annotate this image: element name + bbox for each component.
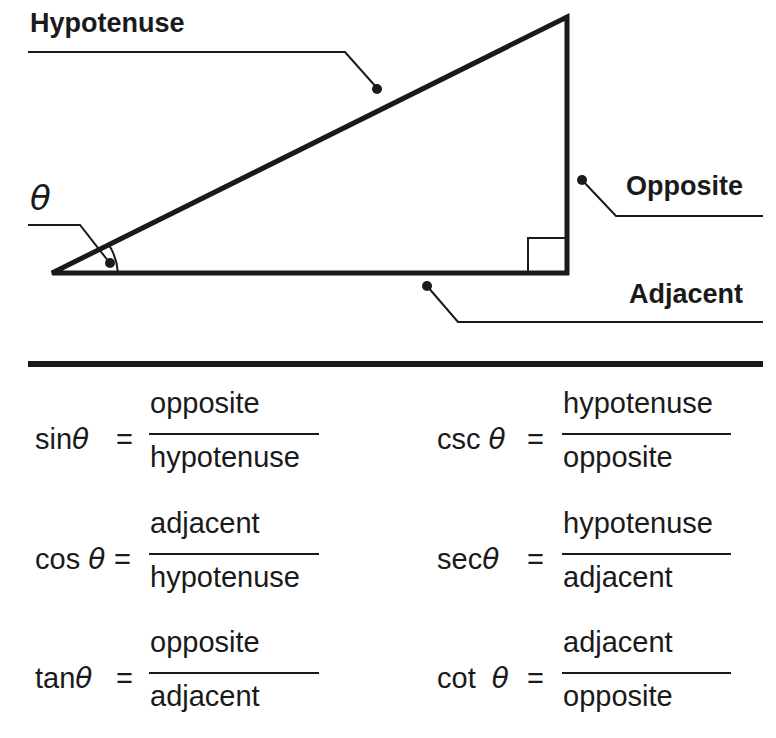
denominator: adjacent	[563, 561, 673, 594]
right-angle-marker	[528, 238, 567, 273]
equals-sign: =	[527, 543, 544, 576]
formula-sec: secθ = hypotenuse adjacent	[400, 521, 776, 631]
opposite-label: Opposite	[626, 171, 743, 202]
fraction-bar	[562, 672, 731, 674]
numerator: opposite	[150, 626, 260, 659]
fraction-bar	[149, 553, 319, 555]
function-name: csc θ	[437, 423, 506, 456]
formula-tan: tanθ = opposite adjacent	[0, 640, 390, 738]
section-divider	[28, 361, 763, 367]
fraction-bar	[562, 433, 731, 435]
formula-csc: csc θ = hypotenuse opposite	[400, 401, 776, 511]
fraction-bar	[562, 553, 731, 555]
denominator: opposite	[563, 680, 673, 713]
numerator: hypotenuse	[563, 387, 713, 420]
formula-sin: sinθ = opposite hypotenuse	[0, 401, 390, 511]
function-name: cot θ	[437, 662, 509, 695]
equals-sign: =	[114, 543, 131, 576]
hypotenuse-label: Hypotenuse	[30, 8, 185, 39]
adjacent-leader-dot	[422, 281, 432, 291]
angle-leader-dot	[105, 258, 115, 268]
denominator: opposite	[563, 441, 673, 474]
denominator: hypotenuse	[150, 441, 300, 474]
numerator: adjacent	[563, 626, 673, 659]
fraction-bar	[149, 433, 319, 435]
formula-cos: cos θ = adjacent hypotenuse	[0, 521, 390, 631]
hypotenuse-leader-line	[28, 52, 377, 88]
equals-sign: =	[116, 662, 133, 695]
denominator: adjacent	[150, 680, 260, 713]
numerator: hypotenuse	[563, 507, 713, 540]
function-name: tanθ	[35, 662, 92, 695]
formula-cot: cot θ = adjacent opposite	[400, 640, 776, 738]
function-name: cos θ	[35, 543, 105, 576]
numerator: opposite	[150, 387, 260, 420]
fraction-bar	[149, 672, 319, 674]
denominator: hypotenuse	[150, 561, 300, 594]
equals-sign: =	[116, 423, 133, 456]
function-name: secθ	[437, 543, 499, 576]
numerator: adjacent	[150, 507, 260, 540]
hypotenuse-leader-dot	[372, 84, 382, 94]
adjacent-label: Adjacent	[629, 279, 743, 310]
angle-leader-line	[28, 225, 109, 262]
function-name: sinθ	[35, 423, 89, 456]
opposite-leader-dot	[577, 175, 587, 185]
equals-sign: =	[527, 662, 544, 695]
angle-theta-label: θ	[30, 178, 51, 218]
equals-sign: =	[527, 423, 544, 456]
right-triangle	[52, 17, 567, 273]
